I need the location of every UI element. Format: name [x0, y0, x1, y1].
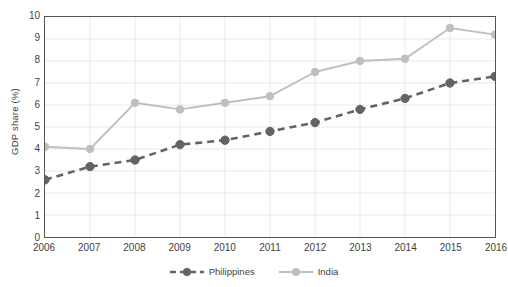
legend-swatch-philippines [170, 267, 204, 277]
data-point-philippines [491, 72, 495, 80]
legend-label: Philippines [209, 266, 255, 277]
data-point-india [221, 99, 229, 107]
legend-swatch-india [279, 267, 313, 277]
chart-legend: PhilippinesIndia [0, 266, 508, 277]
x-tick-label: 2008 [111, 242, 157, 254]
data-point-philippines [311, 118, 319, 126]
data-point-philippines [401, 94, 409, 102]
y-tick-label: 10 [18, 11, 40, 21]
data-point-india [401, 55, 409, 63]
legend-item-philippines[interactable]: Philippines [170, 266, 255, 277]
data-point-india [131, 99, 139, 107]
y-axis-tick-labels: 012345678910 [18, 8, 40, 248]
data-point-philippines [131, 156, 139, 164]
x-tick-label: 2016 [473, 242, 508, 254]
x-tick-label: 2012 [292, 242, 338, 254]
data-point-philippines [221, 136, 229, 144]
data-point-philippines [176, 140, 184, 148]
data-point-philippines [446, 79, 454, 87]
y-tick-label: 2 [18, 189, 40, 199]
x-tick-label: 2009 [157, 242, 203, 254]
y-tick-label: 4 [18, 144, 40, 154]
plot-svg [45, 17, 495, 237]
data-point-india [446, 24, 454, 32]
data-point-india [45, 143, 49, 151]
legend-item-india[interactable]: India [279, 266, 339, 277]
x-tick-label: 2014 [383, 242, 429, 254]
y-tick-label: 1 [18, 211, 40, 221]
gdp-share-line-chart: GDP share (%) 012345678910 2006200720082… [0, 0, 508, 287]
x-axis-tick-labels: 2006200720082009201020112012201320142015… [44, 242, 496, 260]
plot-area [44, 16, 496, 238]
data-point-india [311, 68, 319, 76]
data-point-philippines [266, 127, 274, 135]
data-point-india [266, 92, 274, 100]
data-point-india [176, 106, 184, 114]
y-tick-label: 9 [18, 33, 40, 43]
x-tick-label: 2006 [21, 242, 67, 254]
y-tick-label: 3 [18, 166, 40, 176]
y-tick-label: 7 [18, 78, 40, 88]
x-tick-label: 2007 [66, 242, 112, 254]
legend-label: India [318, 266, 339, 277]
y-tick-label: 5 [18, 122, 40, 132]
x-tick-label: 2010 [202, 242, 248, 254]
data-point-philippines [86, 162, 94, 170]
data-point-india [491, 31, 495, 39]
data-point-india [356, 57, 364, 65]
x-tick-label: 2015 [428, 242, 474, 254]
y-tick-label: 6 [18, 100, 40, 110]
data-point-india [86, 145, 94, 153]
data-point-philippines [45, 176, 49, 184]
x-tick-label: 2013 [337, 242, 383, 254]
y-tick-label: 8 [18, 55, 40, 65]
data-point-philippines [356, 105, 364, 113]
x-tick-label: 2011 [247, 242, 293, 254]
